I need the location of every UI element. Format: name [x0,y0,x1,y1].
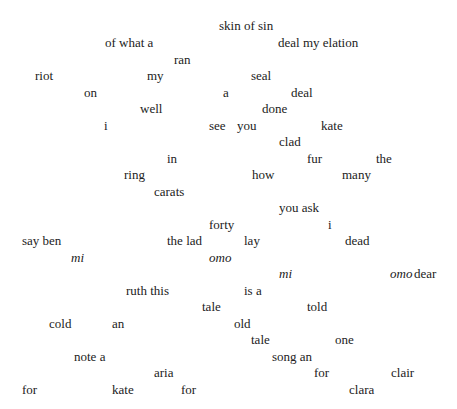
poem-word: a [223,85,229,101]
poem-word: clad [279,134,301,150]
poem-word: fur [307,151,322,167]
poem-word: aria [154,365,173,381]
poem-word: you [237,118,257,134]
poem-word: seal [251,68,271,84]
poem-word: kate [112,382,134,398]
poem-word: ran [174,52,191,68]
poem-word: carats [154,184,184,200]
poem-word: riot [35,68,53,84]
poem-word: my [147,68,164,84]
poem-word: deal [291,85,313,101]
poem-word: one [335,332,354,348]
poem-word: for [314,365,329,381]
poem-word: see [209,118,226,134]
poem-word: how [252,167,274,183]
poem-word: kate [321,118,343,134]
poem-word: forty [209,217,234,233]
poem-word: you ask [279,200,319,216]
poem-word: the [376,151,392,167]
poem-word: tale [202,299,221,315]
poem-word: on [84,85,97,101]
poem-word: an [112,316,124,332]
poem-word: lay [244,233,260,249]
poem-word: skin of sin [219,18,273,34]
poem-word: note a [74,349,105,365]
poem-word: the lad [167,233,202,249]
poem-word: for [181,382,196,398]
poem-word: in [167,151,177,167]
poem-word: tale [251,332,270,348]
poem-word: song an [272,349,312,365]
poem-word: many [342,167,371,183]
poem-word: ring [124,167,145,183]
poem-word: of what a [105,35,153,51]
poem-word: dear [414,266,436,282]
poem-word: old [234,316,251,332]
poem-word: mi [279,266,292,282]
poem-word: dead [345,233,370,249]
poem-word: ruth this [126,283,169,299]
poem-word: omo [209,250,231,266]
poem-word: clara [349,382,374,398]
poem-word: is a [244,283,262,299]
poem-word: i [328,217,332,233]
poem-word: say ben [22,233,61,249]
poem-word: deal my elation [278,35,358,51]
poem-word: cold [49,316,71,332]
poem-word: omo [390,266,412,282]
poem-word: done [262,101,287,117]
poem-word: mi [71,250,84,266]
poem-word: well [140,101,162,117]
poem-word: told [307,299,327,315]
poem-word: clair [391,365,414,381]
poem-word: i [104,118,108,134]
poem-page: skin of sinof what adeal my elationranri… [0,0,457,409]
poem-word: for [22,382,37,398]
